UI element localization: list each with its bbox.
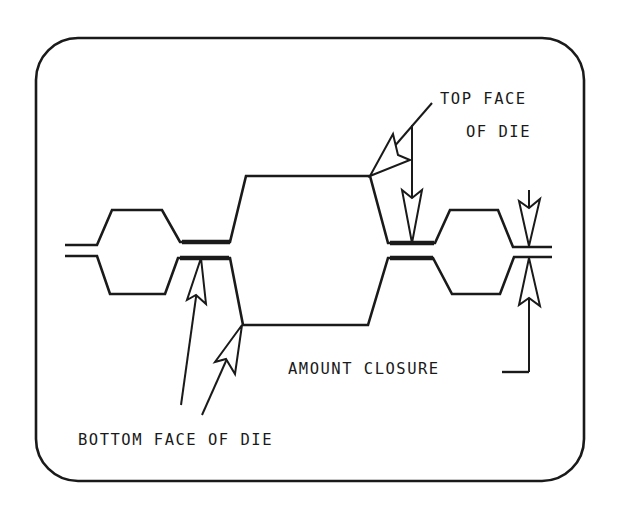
top-face-label-line2: OF DIE [466,123,531,141]
bottom-face-label: BOTTOM FACE OF DIE [78,431,273,449]
amount-closure-upper-arrow [519,190,540,247]
bottom-face-arrow-left [181,258,206,405]
bottom-face-arrow-right [202,325,242,415]
top-face-vertical-arrow [402,125,422,243]
die-closure-diagram: TOP FACE OF DIE AMOUNT CLOSURE BOTTOM FA… [0,0,617,512]
top-die-profile [65,176,552,247]
top-face-label-line1: TOP FACE [440,90,527,108]
bottom-die-profile [65,256,552,325]
top-face-leader-arrow [370,103,432,176]
amount-closure-label: AMOUNT CLOSURE [288,360,440,378]
